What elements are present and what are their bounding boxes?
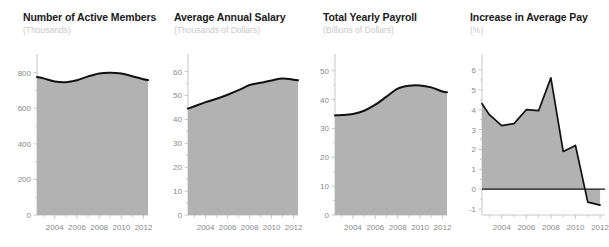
y-tick-label: 0 <box>325 211 330 220</box>
y-tick-label: 30 <box>320 124 329 133</box>
y-tick-label: 50 <box>320 67 329 76</box>
x-tick-label: 2010 <box>411 223 429 232</box>
y-tick-label: -1 <box>469 205 477 214</box>
plot-area: 020040060080020042006200820102012 <box>0 0 152 247</box>
x-tick-label: 2010 <box>112 223 130 232</box>
x-tick-label: 2004 <box>197 223 215 232</box>
plot-area: -1012345620042006200820102012 <box>454 0 609 247</box>
x-tick-label: 2004 <box>46 223 64 232</box>
y-tick-label: 10 <box>320 182 329 191</box>
y-tick-label: 0 <box>178 211 183 220</box>
x-tick-label: 2012 <box>591 223 609 232</box>
y-tick-label: 60 <box>173 68 182 77</box>
plot-area: 010203040506020042006200820102012 <box>152 0 302 247</box>
area-fill <box>482 78 600 205</box>
y-tick-label: 10 <box>173 187 182 196</box>
y-tick-label: 2 <box>472 145 477 154</box>
area-fill <box>188 78 298 215</box>
y-tick-label: 0 <box>27 211 32 220</box>
x-tick-label: 2012 <box>135 223 152 232</box>
y-tick-label: 40 <box>320 96 329 105</box>
y-tick-label: 0 <box>472 185 477 194</box>
y-tick-label: 20 <box>320 153 329 162</box>
x-tick-label: 2010 <box>567 223 585 232</box>
y-tick-label: 400 <box>18 140 32 149</box>
x-tick-label: 2006 <box>517 223 535 232</box>
x-tick-label: 2010 <box>263 223 281 232</box>
panel-increase-in-average-pay: Increase in Average Pay (%) -10123456200… <box>454 0 609 247</box>
x-tick-label: 2004 <box>493 223 511 232</box>
y-tick-label: 50 <box>173 91 182 100</box>
y-tick-label: 1 <box>472 165 477 174</box>
y-tick-label: 30 <box>173 139 182 148</box>
y-tick-label: 600 <box>18 104 32 113</box>
area-fill <box>37 73 148 215</box>
y-tick-label: 3 <box>472 126 477 135</box>
y-tick-label: 4 <box>472 106 477 115</box>
panel-total-yearly-payroll: Total Yearly Payroll (Billions of Dollar… <box>302 0 454 247</box>
x-tick-label: 2008 <box>389 223 407 232</box>
y-tick-label: 6 <box>472 66 477 75</box>
multi-panel-chart-figure: Number of Active Members (Thousands) 020… <box>0 0 609 247</box>
y-tick-label: 20 <box>173 163 182 172</box>
x-tick-label: 2006 <box>68 223 86 232</box>
x-tick-label: 2008 <box>90 223 108 232</box>
panel-number-of-active-members: Number of Active Members (Thousands) 020… <box>0 0 152 247</box>
y-tick-label: 800 <box>18 69 32 78</box>
x-tick-label: 2012 <box>285 223 302 232</box>
y-tick-label: 5 <box>472 86 477 95</box>
area-fill <box>335 85 447 215</box>
x-tick-label: 2012 <box>434 223 452 232</box>
y-tick-label: 200 <box>18 175 32 184</box>
x-tick-label: 2006 <box>366 223 384 232</box>
x-tick-label: 2004 <box>344 223 362 232</box>
plot-area: 0102030405020042006200820102012 <box>302 0 454 247</box>
x-tick-label: 2006 <box>219 223 237 232</box>
y-tick-label: 40 <box>173 115 182 124</box>
panel-average-annual-salary: Average Annual Salary (Thousands of Doll… <box>152 0 302 247</box>
x-tick-label: 2008 <box>542 223 560 232</box>
x-tick-label: 2008 <box>241 223 259 232</box>
